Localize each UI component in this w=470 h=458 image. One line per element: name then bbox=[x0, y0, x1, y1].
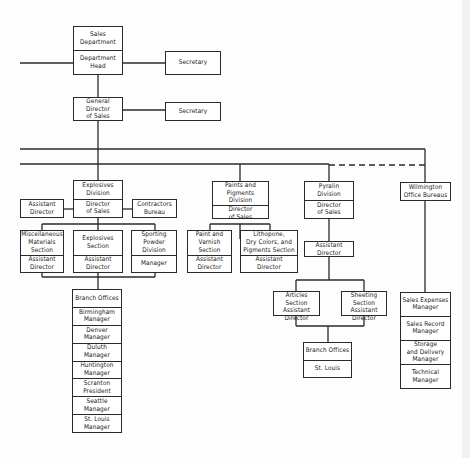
paints-pigments-label: Paints and Pigments Division bbox=[213, 182, 268, 205]
paints-pigments-division-box: Paints and Pigments Division Director of… bbox=[212, 181, 269, 219]
branch-offices-stack: Branch Offices Birmingham Manager Denver… bbox=[72, 289, 122, 433]
branch-office-item: St. Louis Manager bbox=[73, 414, 121, 432]
branch-office-item: Seattle Manager bbox=[73, 396, 121, 414]
manager-label: Manager bbox=[132, 255, 176, 272]
wilmington-managers-stack: Sales Expenses Manager Sales Record Mana… bbox=[400, 292, 451, 389]
sales-record-manager-label: Sales Record Manager bbox=[401, 316, 450, 340]
storage-delivery-manager-label: Storage and Delivery Manager bbox=[401, 340, 450, 364]
sporting-powder-division-box: Sporting Powder Division Manager bbox=[131, 230, 177, 273]
paint-varnish-label: Paint and Varnish Section bbox=[188, 231, 231, 255]
assistant-director-label: Assistant Director bbox=[74, 255, 122, 272]
wilmington-label: Wilmington Office Bureaus bbox=[401, 183, 450, 200]
assistant-director-label: Assistant Director bbox=[241, 255, 297, 272]
assistant-director-label: Assistant Director bbox=[188, 255, 231, 272]
paint-varnish-section-box: Paint and Varnish Section Assistant Dire… bbox=[187, 230, 232, 273]
technical-manager-label: Technical Manager bbox=[401, 364, 450, 388]
explosives-assistant-director-box: Assistant Director bbox=[20, 199, 64, 218]
branch-office-item: Scranton President bbox=[73, 378, 121, 396]
sheeting-section-box: Sheeting Section Assistant Director bbox=[341, 291, 387, 316]
sheeting-section-label: Sheeting Section Assistant Director bbox=[342, 292, 386, 323]
pyralin-division-box: Pyralin Division Director of Sales bbox=[304, 181, 354, 219]
pyralin-branch-offices-box: Branch Offices St. Louis bbox=[303, 342, 352, 378]
sporting-powder-label: Sporting Powder Division bbox=[132, 231, 176, 255]
assistant-director-label: Assistant Director bbox=[305, 242, 353, 257]
branch-office-item: Huntington Manager bbox=[73, 361, 121, 379]
lithopone-label: Lithopone, Dry Colors, and Pigments Sect… bbox=[241, 231, 297, 255]
general-director-box: General Director of Sales bbox=[73, 97, 123, 121]
st-louis-label: St. Louis bbox=[304, 360, 351, 378]
assistant-director-label: Assistant Director bbox=[21, 255, 63, 272]
branch-offices-header: Branch Offices bbox=[73, 290, 121, 307]
assistant-director-label: Assistant Director bbox=[21, 200, 63, 217]
sales-department-box: Sales Department Department Head bbox=[73, 26, 123, 75]
explosives-division-label: Explosives Division bbox=[74, 181, 122, 199]
connector-lines bbox=[0, 0, 470, 458]
sales-expenses-manager-label: Sales Expenses Manager bbox=[401, 293, 450, 316]
secretary-box-1: Secretary bbox=[165, 51, 221, 75]
articles-section-box: Articles Section Assistant Director bbox=[273, 291, 320, 316]
director-of-sales-label: Director of Sales bbox=[74, 199, 122, 218]
misc-materials-section-box: Miscellaneous Materials Section Assistan… bbox=[20, 230, 64, 273]
director-of-sales-label: Director of Sales bbox=[305, 200, 353, 219]
secretary-label: Secretary bbox=[166, 52, 220, 74]
secretary-label: Secretary bbox=[166, 103, 220, 120]
branch-office-item: Birmingham Manager bbox=[73, 307, 121, 325]
contractors-bureau-box: Contractors Bureau bbox=[132, 199, 177, 218]
branch-office-item: Denver Manager bbox=[73, 325, 121, 343]
explosives-section-box: Explosives Section Assistant Director bbox=[73, 230, 123, 273]
branch-office-item: Duluth Manager bbox=[73, 343, 121, 361]
general-director-label: General Director of Sales bbox=[74, 98, 122, 121]
lithopone-section-box: Lithopone, Dry Colors, and Pigments Sect… bbox=[240, 230, 298, 273]
contractors-bureau-label: Contractors Bureau bbox=[133, 200, 176, 217]
pyralin-assistant-director-box: Assistant Director bbox=[304, 241, 354, 257]
explosives-section-label: Explosives Section bbox=[74, 231, 122, 255]
articles-section-label: Articles Section Assistant Director bbox=[274, 292, 319, 323]
pyralin-division-label: Pyralin Division bbox=[305, 182, 353, 200]
explosives-division-box: Explosives Division Director of Sales bbox=[73, 180, 123, 218]
wilmington-office-bureaus-box: Wilmington Office Bureaus bbox=[400, 182, 451, 201]
director-of-sales-label: Director of Sales bbox=[213, 205, 268, 221]
sales-department-label: Sales Department bbox=[74, 27, 122, 50]
secretary-box-2: Secretary bbox=[165, 102, 221, 121]
branch-offices-header: Branch Offices bbox=[304, 343, 351, 360]
misc-materials-label: Miscellaneous Materials Section bbox=[21, 231, 63, 255]
department-head-label: Department Head bbox=[74, 50, 122, 74]
